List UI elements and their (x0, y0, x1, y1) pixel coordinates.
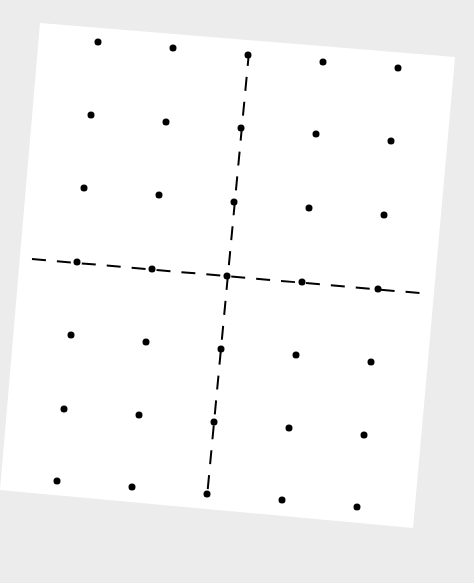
grid-dot (231, 199, 238, 206)
grid-dot (293, 352, 300, 359)
grid-dot (224, 273, 231, 280)
grid-dot (361, 432, 368, 439)
grid-dot (61, 406, 68, 413)
grid-dot (279, 497, 286, 504)
dot-grid-diagram (0, 0, 474, 583)
grid-dot (354, 504, 361, 511)
grid-dot (211, 419, 218, 426)
grid-dot (81, 185, 88, 192)
grid-dot (170, 45, 177, 52)
grid-dot (149, 266, 156, 273)
grid-dot (156, 192, 163, 199)
grid-dot (245, 52, 252, 59)
grid-dot (286, 425, 293, 432)
grid-dot (136, 412, 143, 419)
grid-dot (143, 339, 150, 346)
grid-dot (313, 131, 320, 138)
grid-dot (299, 279, 306, 286)
grid-dot (129, 484, 136, 491)
grid-dot (375, 286, 382, 293)
grid-dot (320, 59, 327, 66)
grid-dot (306, 205, 313, 212)
grid-dot (95, 39, 102, 46)
grid-dot (368, 359, 375, 366)
grid-dot (54, 478, 61, 485)
grid-dot (68, 332, 75, 339)
grid-dot (395, 65, 402, 72)
grid-dot (218, 346, 225, 353)
grid-dot (238, 125, 245, 132)
grid-dot (163, 119, 170, 126)
grid-dot (388, 138, 395, 145)
grid-dot (88, 112, 95, 119)
grid-dot (74, 259, 81, 266)
grid-dot (381, 212, 388, 219)
grid-dot (204, 491, 211, 498)
